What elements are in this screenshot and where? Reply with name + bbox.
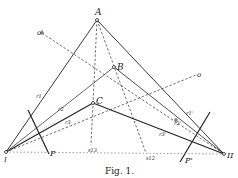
dashed-line-I-II-C [6, 152, 224, 154]
point-A-marker [96, 19, 99, 22]
figure-diagram: A B C I II o' o s13 s12 P P' r1 r2 r3 r1… [0, 0, 238, 178]
point-B-marker [113, 66, 116, 69]
line-I-C [6, 103, 93, 152]
label-o-prime: o' [37, 29, 43, 37]
dashed-line-o-prime [42, 33, 224, 154]
label-II: II [226, 151, 234, 160]
label-A: A [94, 7, 102, 17]
label-r1: r1 [36, 93, 42, 99]
plane-P-prime [180, 112, 210, 162]
label-r2: r2 [58, 106, 64, 112]
label-r3: r3 [65, 119, 71, 125]
figure-caption: Fig. 1. [105, 166, 134, 176]
dashed-line-A-s13 [91, 20, 97, 145]
point-I-marker [5, 151, 8, 154]
label-r3-prime: r3' [159, 131, 166, 137]
label-plane-P: P [49, 149, 56, 158]
label-o: o [197, 71, 201, 79]
label-I: I [3, 156, 7, 164]
point-C-marker [92, 102, 95, 105]
label-r2-prime: r2' [174, 120, 181, 126]
label-plane-P-prime: P' [184, 156, 193, 165]
label-s13: s13 [88, 147, 97, 153]
line-I-A [6, 20, 97, 152]
dashed-line-I-o [6, 75, 196, 152]
point-II-marker [223, 153, 226, 156]
label-C: C [96, 96, 103, 106]
label-s12: s12 [146, 155, 155, 161]
label-r1-prime: r1' [186, 110, 193, 116]
label-B: B [116, 62, 124, 72]
